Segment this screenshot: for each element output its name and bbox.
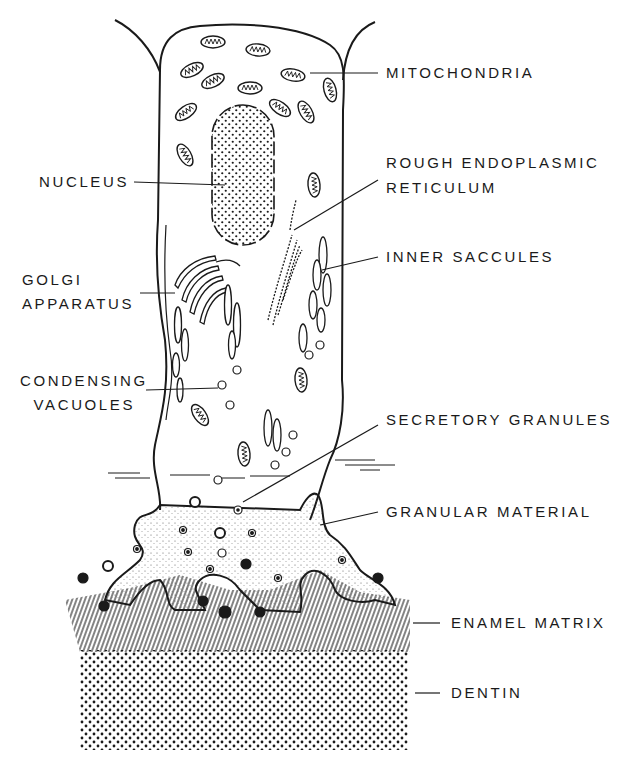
- label-enamel-matrix: ENAMEL MATRIX: [451, 613, 606, 633]
- neighbor-cell-right: [343, 22, 375, 80]
- neighbor-cell-left: [115, 20, 160, 72]
- dentin-region: [80, 650, 408, 750]
- junction-lines: [108, 460, 395, 478]
- label-condensing-line1: CONDENSING: [20, 371, 148, 391]
- label-condensing-line2: VACUOLES: [34, 395, 135, 415]
- mitochondria-group: [173, 36, 339, 466]
- label-inner-saccules: INNER SACCULES: [386, 247, 554, 267]
- label-mitochondria: MITOCHONDRIA: [386, 63, 534, 83]
- label-dentin: DENTIN: [451, 683, 522, 703]
- label-granular-material: GRANULAR MATERIAL: [386, 502, 592, 522]
- label-golgi-line1: GOLGI: [22, 270, 83, 290]
- nucleus: [212, 105, 274, 245]
- label-secretory-granules: SECRETORY GRANULES: [386, 410, 612, 430]
- label-rer-line1: ROUGH ENDOPLASMIC: [386, 153, 599, 173]
- label-golgi-line2: APPARATUS: [22, 294, 134, 314]
- golgi-apparatus: [173, 256, 241, 402]
- label-nucleus: NUCLEUS: [39, 172, 129, 192]
- condensing-vacuoles: [218, 341, 324, 469]
- label-rer-line2: RETICULUM: [386, 178, 497, 198]
